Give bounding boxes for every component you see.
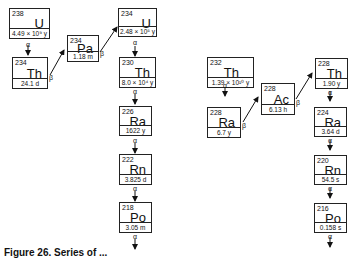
alpha-label: α (328, 185, 332, 192)
alpha-label: α (133, 137, 137, 144)
half-life: 1.18 m (68, 51, 98, 61)
half-life: 6.13 h (262, 104, 294, 114)
figure-caption: Figure 26. Series of ... (4, 247, 107, 258)
alpha-label: α (133, 185, 137, 192)
mass-number: 234 (15, 59, 27, 66)
nuclide-box-u238: 238 U 4.49 × 10⁹ y (9, 8, 50, 39)
half-life: 1622 y (120, 125, 151, 135)
alpha-label: α (328, 233, 332, 240)
nuclide-box-ra224: 224 Ra 3.64 d (314, 107, 347, 137)
alpha-label: α (26, 41, 30, 48)
half-life: 2.48 × 10⁵ y (119, 26, 156, 36)
nuclide-box-th228: 228 Th 1.90 y (315, 58, 348, 89)
beta-label: β (49, 74, 53, 81)
alpha-label: α (133, 233, 137, 240)
half-life: 6.7 y (208, 127, 240, 137)
half-life: 3.05 m (120, 222, 151, 232)
beta-label: β (242, 122, 246, 129)
nuclide-box-th234: 234 Th 24.1 d (12, 57, 48, 89)
nuclide-box-rn220: 220 Rn 54.5 s (314, 155, 347, 185)
nuclide-box-po216: 216 Po 0.158 s (314, 203, 347, 233)
half-life: 24.1 d (13, 78, 47, 88)
decay-arrows (0, 0, 358, 258)
half-life: 3.64 d (315, 126, 346, 136)
nuclide-box-ra228: 228 Ra 6.7 y (207, 107, 241, 138)
mass-number: 234 (121, 10, 133, 17)
alpha-label: α (133, 39, 137, 46)
half-life: 1.39 × 10¹⁰ y (208, 77, 253, 87)
beta-label: β (296, 99, 300, 106)
mass-number: 238 (12, 10, 24, 17)
mass-number: 232 (210, 59, 222, 66)
nuclide-box-ra226: 226 Ra 1622 y (119, 106, 152, 136)
alpha-label: α (328, 89, 332, 96)
nuclide-box-th232: 232 Th 1.39 × 10¹⁰ y (207, 57, 254, 88)
half-life: 1.90 y (316, 78, 347, 88)
nuclide-box-ac228: 228 Ac 6.13 h (261, 83, 295, 115)
alpha-label: α (133, 88, 137, 95)
half-life: 3.825 d (120, 174, 151, 184)
nuclide-box-rn222: 222 Rn 3.825 d (119, 154, 152, 185)
mass-number: 230 (122, 59, 134, 66)
nuclide-box-u234: 234 U 2.48 × 10⁵ y (118, 8, 157, 37)
mass-number: 228 (264, 85, 276, 92)
alpha-label: α (223, 82, 227, 89)
nuclide-box-th230: 230 Th 8.0 × 10⁴ y (119, 57, 156, 88)
beta-label: β (100, 50, 104, 57)
half-life: 0.158 s (315, 222, 346, 232)
nuclide-box-pa234: 234 Pa 1.18 m (67, 35, 99, 62)
half-life: 54.5 s (315, 174, 346, 184)
nuclide-box-po218: 218 Po 3.05 m (119, 202, 152, 233)
alpha-label: α (328, 137, 332, 144)
half-life: 8.0 × 10⁴ y (120, 77, 155, 87)
half-life: 4.49 × 10⁹ y (10, 28, 49, 38)
